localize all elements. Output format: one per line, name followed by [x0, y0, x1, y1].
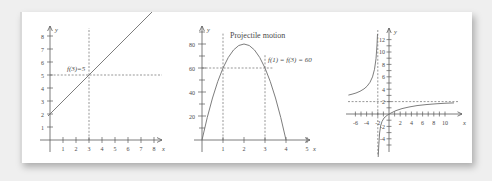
annotation-f1-f3-equals-60: f(1) = f(3) = 60 — [268, 56, 312, 64]
x-tick-label: 8 — [153, 146, 156, 152]
chart-title-parabola: Projectile motion — [230, 31, 285, 40]
y-tick-label: 20 — [189, 114, 195, 120]
chart-parabola-svg: 20 40 60 80 1 2 3 4 — [172, 12, 332, 163]
x-tick-labels-parabola: 1 2 3 4 5 — [222, 146, 309, 152]
x-tick-label: 2 — [399, 120, 402, 126]
x-tick-label: 7 — [140, 146, 143, 152]
chart-linear: 1 2 3 4 5 6 7 8 — [22, 12, 172, 163]
x-tick-label: -4 — [364, 120, 369, 126]
chart-linear-svg: 1 2 3 4 5 6 7 8 — [22, 12, 172, 163]
x-axis-label-hyperbola: x — [462, 119, 466, 126]
y-tick-labels-parabola: 20 40 60 80 — [189, 42, 195, 120]
y-axis-label-hyperbola: y — [393, 28, 397, 35]
x-tick-label: 2 — [75, 146, 78, 152]
y-tick-label: 7 — [41, 47, 44, 53]
y-tick-label: 2 — [382, 99, 385, 105]
x-axis-label-parabola: x — [312, 145, 316, 152]
chart-parabola: 20 40 60 80 1 2 3 4 — [172, 12, 332, 163]
chart-hyperbola: -6 -4 -2 2 4 6 8 10 — [332, 12, 472, 163]
axes-hyperbola — [346, 28, 462, 152]
x-tick-label: 4 — [410, 120, 413, 126]
annotation-f3-equals-5: f(3)=5 — [67, 65, 86, 73]
y-tick-label: 3 — [41, 99, 44, 105]
x-tick-label: 4 — [285, 146, 288, 152]
x-tick-label: 1 — [222, 146, 225, 152]
x-tick-label: 10 — [442, 120, 448, 126]
y-tick-labels-hyperbola: 2 4 6 8 10 12 -2 -4 — [379, 37, 385, 142]
figure-card: 1 2 3 4 5 6 7 8 — [20, 12, 472, 163]
y-tick-label: 6 — [41, 60, 44, 66]
y-tick-label: 5 — [41, 73, 44, 79]
series-curve-hyperbola-left — [348, 34, 377, 95]
x-tick-label: 5 — [114, 146, 117, 152]
y-tick-label: 6 — [382, 74, 385, 80]
x-tick-label: 3 — [264, 146, 267, 152]
axes-linear — [40, 26, 162, 152]
x-axis-label-linear: x — [161, 145, 165, 152]
x-tick-label: -6 — [353, 120, 358, 126]
series-line-linear — [48, 12, 157, 116]
axes-parabola — [194, 26, 310, 152]
screenshot-root: 1 2 3 4 5 6 7 8 — [0, 0, 492, 181]
x-tick-label: 4 — [101, 146, 104, 152]
x-tick-labels-linear: 1 2 3 4 5 6 7 8 — [62, 146, 156, 152]
x-tick-label: 1 — [62, 146, 65, 152]
y-tick-label: 8 — [41, 34, 44, 40]
y-tick-label: 80 — [189, 42, 195, 48]
y-axis-label-linear: y — [54, 26, 58, 33]
y-tick-label: 1 — [41, 125, 44, 131]
chart-hyperbola-svg: -6 -4 -2 2 4 6 8 10 — [332, 12, 472, 163]
y-tick-label-negative: -4 — [380, 136, 385, 142]
y-axis-label-parabola: y — [206, 26, 210, 33]
y-tick-label: 2 — [41, 112, 44, 118]
x-tick-label: 6 — [127, 146, 130, 152]
x-tick-label: 8 — [432, 120, 435, 126]
y-tick-label: 12 — [379, 37, 385, 43]
x-tick-label: 6 — [421, 120, 424, 126]
x-tick-label: 2 — [243, 146, 246, 152]
x-tick-label: 5 — [306, 146, 309, 152]
y-tick-label: 4 — [41, 86, 44, 92]
y-tick-label: 60 — [189, 66, 195, 72]
y-tick-labels-linear: 1 2 3 4 5 6 7 8 — [41, 34, 44, 131]
y-tick-label: 4 — [382, 87, 385, 93]
y-tick-label: 10 — [379, 49, 385, 55]
y-tick-label: 8 — [382, 62, 385, 68]
x-tick-label: 3 — [88, 146, 91, 152]
y-tick-label: 40 — [189, 90, 195, 96]
series-curve-hyperbola-right — [378, 103, 454, 157]
x-tick-labels-hyperbola: -6 -4 -2 2 4 6 8 10 — [353, 120, 448, 126]
